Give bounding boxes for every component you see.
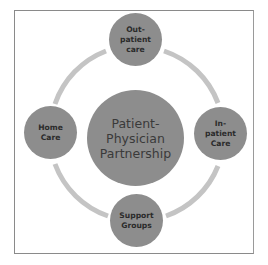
ring-arc-top-right bbox=[164, 51, 218, 103]
node-inpatient-care: In- patient Care bbox=[194, 107, 247, 160]
ring-arc-left-top bbox=[55, 51, 106, 104]
node-outpatient-care: Out- patient care bbox=[109, 13, 162, 66]
node-support-groups: Support Groups bbox=[110, 194, 163, 247]
node-label: Support Groups bbox=[119, 211, 153, 231]
center-node-label: Patient- Physician Partnership bbox=[100, 116, 171, 161]
ring-arc-bottom-left bbox=[55, 164, 108, 216]
node-home-care: Home Care bbox=[24, 106, 77, 159]
node-label: Out- patient care bbox=[120, 25, 151, 55]
node-label: In- patient Care bbox=[205, 119, 236, 149]
ring-arc-right-bottom bbox=[166, 166, 218, 216]
node-label: Home Care bbox=[38, 123, 63, 143]
center-node-patient-physician-partnership: Patient- Physician Partnership bbox=[87, 90, 184, 186]
